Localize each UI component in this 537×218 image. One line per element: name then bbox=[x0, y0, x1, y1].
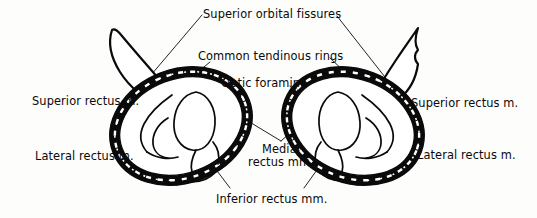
label-optic-foramina: Optic foramina bbox=[221, 77, 307, 90]
label-superior-rectus-left: Superior rectus m. bbox=[32, 95, 139, 108]
label-superior-orbital-fissures: Superior orbital fissures bbox=[203, 8, 341, 21]
label-lateral-rectus-right: Lateral rectus m. bbox=[417, 149, 516, 162]
anatomy-figure: Superior orbital fissures Common tendino… bbox=[0, 0, 537, 218]
label-medial-rectus: Medial rectus mm. bbox=[237, 143, 325, 168]
label-medial-rectus-line2: rectus mm. bbox=[248, 155, 314, 169]
label-inferior-rectus: Inferior rectus mm. bbox=[216, 193, 327, 206]
label-common-tendinous-rings: Common tendinous rings bbox=[198, 50, 343, 63]
label-lateral-rectus-left: Lateral rectus m. bbox=[35, 150, 134, 163]
label-superior-rectus-right: Superior rectus m. bbox=[411, 97, 518, 110]
